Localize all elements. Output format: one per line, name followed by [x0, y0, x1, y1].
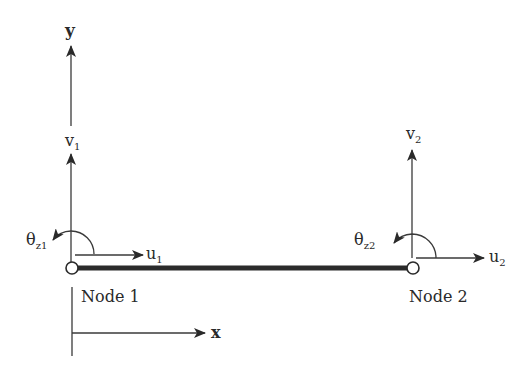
y-axis: y	[64, 20, 76, 126]
v2-label: v2	[405, 124, 421, 145]
u1-label: u1	[146, 244, 163, 265]
node1-v-dof: v1	[64, 131, 80, 262]
v1-label: v1	[64, 131, 80, 152]
theta-z1-arc-icon	[53, 231, 94, 254]
u2-label: u2	[489, 247, 506, 268]
node2-v-dof: v2	[405, 124, 421, 258]
y-axis-label: y	[64, 20, 76, 40]
node1-u-dof: u1	[75, 244, 163, 265]
node1-circle	[66, 262, 78, 274]
beam-element-diagram: y v1 θz1 u1 Node 1 Node 2 x v2 θz2 u2	[0, 0, 530, 371]
theta-z2-arc-icon	[394, 234, 436, 258]
node1-label: Node 1	[81, 287, 140, 306]
theta-z1-label: θz1	[26, 230, 47, 251]
node2-u-dof: u2	[416, 247, 506, 268]
node2-circle	[407, 262, 419, 274]
node2-theta-dof: θz2	[354, 230, 436, 258]
node2-label: Node 2	[409, 287, 468, 306]
theta-z2-label: θz2	[354, 230, 375, 251]
x-axis-label: x	[211, 323, 221, 342]
node1-theta-dof: θz1	[26, 230, 94, 254]
